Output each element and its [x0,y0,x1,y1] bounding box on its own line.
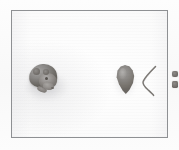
specimen-detached-ears [170,69,179,91]
specimen-whole-mouse [25,63,69,101]
specimen-plate-frame [11,10,168,138]
specimen-teardrop [112,63,138,99]
specimen-detached-tail [140,65,162,97]
detached-ear-upper [172,71,178,77]
mouse-nose [51,87,54,89]
mouse-eye [45,77,48,80]
teardrop-sheen [119,68,127,80]
mouse-ear-right-icon [43,69,49,75]
tail-curve-icon [140,65,162,97]
detached-ear-lower [172,81,178,88]
mouse-ear-left-icon [33,68,40,75]
specimen-photograph [0,0,179,150]
